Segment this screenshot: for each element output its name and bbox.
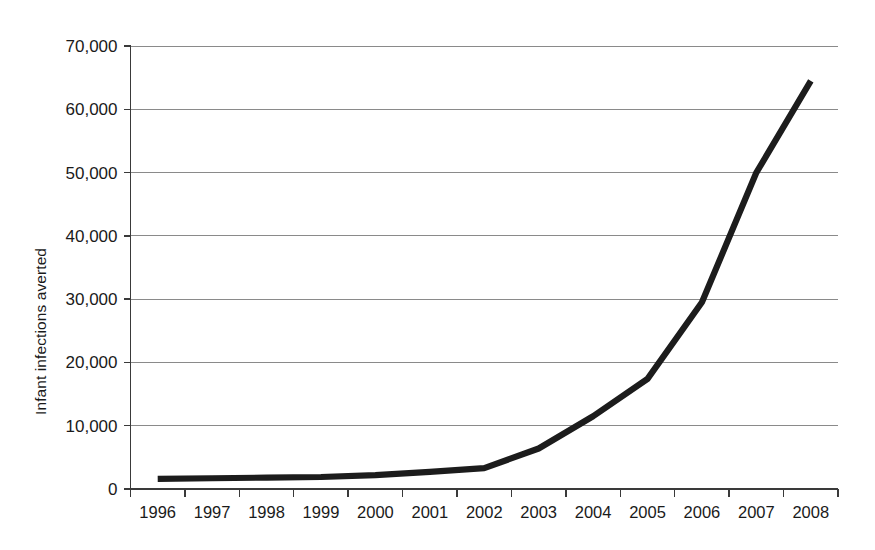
data-series-line [158, 81, 811, 479]
line-chart: Infant infections averted 010,00020,0003… [0, 0, 875, 550]
plot-area [0, 0, 875, 550]
x-axis-ticks [131, 489, 839, 497]
y-axis-ticks [124, 46, 131, 489]
gridlines [131, 46, 839, 489]
